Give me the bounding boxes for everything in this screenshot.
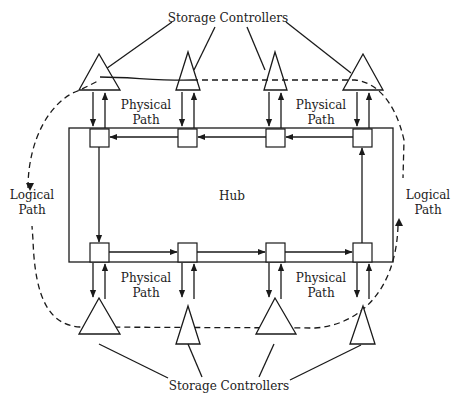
hub-node: [266, 129, 285, 147]
storage-controller-triangle: [264, 52, 287, 90]
hub-topology-diagram: Storage Controllers Hub: [0, 0, 456, 399]
arrow-up-icon: [395, 218, 403, 226]
logical-path-left-upper: [28, 80, 100, 188]
hub-node: [266, 243, 285, 262]
storage-controller-triangle: [256, 298, 296, 334]
hub-node: [90, 243, 109, 262]
hub-node: [90, 129, 109, 147]
physical-path-label-top-left-2: Path: [132, 113, 160, 127]
storage-controller-triangle: [79, 54, 120, 90]
storage-controller-triangle: [176, 306, 200, 344]
storage-controllers-top-label: Storage Controllers: [168, 11, 288, 25]
physical-path-label-bottom-right-2: Path: [307, 286, 335, 300]
physical-path-label-bottom-left: Physical: [121, 271, 171, 285]
storage-controllers-bottom-label: Storage Controllers: [169, 379, 289, 393]
logical-path-label-left: Logical: [10, 188, 55, 202]
hub-node: [178, 129, 197, 147]
storage-controller-triangle: [176, 52, 200, 90]
logical-path-label-right: Logical: [406, 188, 451, 202]
bottom-leader-lines: [99, 344, 361, 380]
physical-path-label-top-right-2: Path: [307, 113, 335, 127]
storage-controller-triangle: [350, 306, 375, 344]
physical-path-label-bottom-left-2: Path: [132, 286, 160, 300]
storage-controller-triangle: [79, 298, 120, 334]
hub-label: Hub: [219, 189, 245, 203]
top-storage-controllers: [79, 52, 383, 90]
bottom-storage-controllers: [79, 298, 375, 344]
physical-path-label-top-left: Physical: [121, 98, 171, 112]
top-hub-nodes: [90, 129, 372, 147]
logical-path-label-right-2: Path: [414, 203, 442, 217]
physical-path-label-bottom-right: Physical: [296, 271, 346, 285]
top-leader-lines: [103, 22, 351, 73]
hub-node: [353, 129, 372, 147]
physical-path-label-top-right: Physical: [296, 98, 346, 112]
hub-node: [353, 243, 372, 262]
hub-node: [178, 243, 197, 262]
logical-path-label-left-2: Path: [18, 203, 46, 217]
